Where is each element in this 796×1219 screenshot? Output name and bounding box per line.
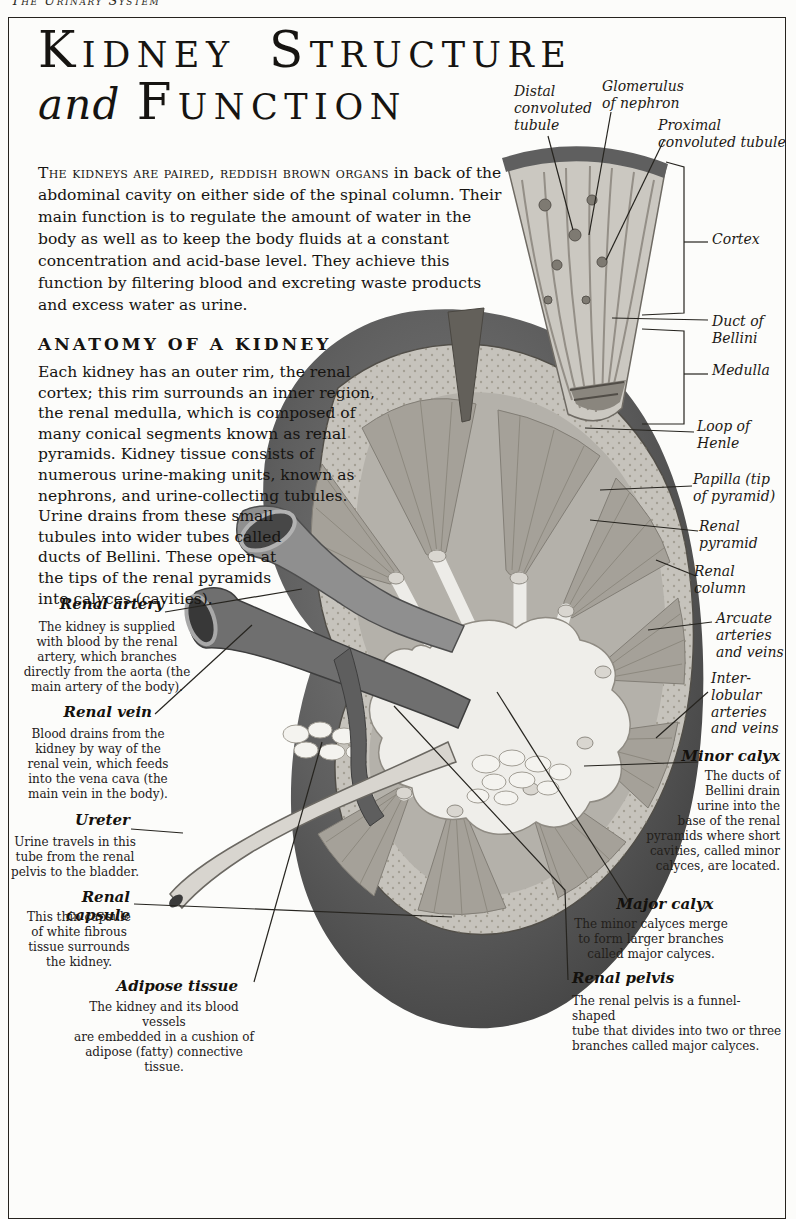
label-interlobular-arteries-and-veins: Inter- lobular arteries and veins	[711, 670, 779, 737]
label-loop-of-henle: Loop of Henle	[697, 418, 750, 452]
label-adipose-tissue: Adipose tissue	[92, 977, 238, 995]
label-renal-pelvis: Renal pelvis	[572, 969, 772, 987]
caption-renal-capsule: This thin capsule of white fibrous tissu…	[18, 910, 140, 970]
page-title-and: and	[38, 80, 121, 129]
label-major-calyx: Major calyx	[590, 895, 740, 913]
label-arcuate-arteries-and-veins: Arcuate arteries and veins	[716, 610, 784, 660]
running-header: The Urinary System	[11, 0, 160, 7]
caption-renal-pelvis: The renal pelvis is a funnel-shaped tube…	[572, 994, 782, 1054]
label-proximal-convoluted-tubule: Proximal convoluted tubule	[658, 117, 786, 151]
label-minor-calyx: Minor calyx	[640, 747, 780, 765]
label-cortex: Cortex	[712, 231, 760, 248]
label-distal-convoluted-tubule: Distal convoluted tubule	[514, 83, 592, 133]
caption-minor-calyx: The ducts of Bellini drain urine into th…	[622, 769, 780, 874]
section-heading: ANATOMY OF A KIDNEY	[38, 334, 331, 354]
caption-adipose-tissue: The kidney and its blood vessels are emb…	[66, 1000, 262, 1075]
label-duct-of-bellini: Duct of Bellini	[712, 313, 764, 347]
caption-renal-artery: The kidney is supplied with blood by the…	[12, 620, 202, 695]
label-renal-artery: Renal artery	[18, 595, 164, 613]
label-papilla: Papilla (tip of pyramid)	[693, 471, 775, 505]
label-ureter: Ureter	[18, 811, 130, 829]
page-title-function: Function	[137, 73, 407, 131]
caption-major-calyx: The minor calyces merge to form larger b…	[560, 917, 742, 962]
intro-paragraph: The kidneys are paired, reddish brown or…	[38, 162, 512, 316]
intro-rest: in back of the abdominal cavity on eithe…	[38, 164, 501, 314]
intro-lead: The kidneys are paired, reddish brown or…	[38, 164, 389, 182]
label-medulla: Medulla	[712, 362, 770, 379]
caption-ureter: Urine travels in this tube from the rena…	[10, 835, 140, 880]
caption-renal-vein: Blood drains from the kidney by way of t…	[18, 727, 178, 802]
page-title: Kidney Structure and Function	[38, 24, 738, 128]
label-glomerulus-of-nephron: Glomerulus of nephron	[602, 78, 684, 112]
label-renal-vein: Renal vein	[18, 703, 152, 721]
label-renal-column: Renal column	[694, 563, 746, 597]
label-renal-pyramid: Renal pyramid	[699, 518, 758, 552]
page-title-line1: Kidney Structure	[38, 24, 738, 76]
